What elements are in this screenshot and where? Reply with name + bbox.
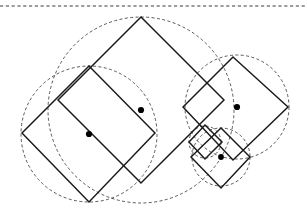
geometry-figure xyxy=(0,0,307,217)
dot-large-square-center xyxy=(138,107,144,113)
dot-right-small-center xyxy=(218,154,224,160)
square-large xyxy=(58,17,224,183)
geometry-canvas xyxy=(0,0,307,217)
dot-left-square-center xyxy=(86,131,92,137)
dot-right-medium-center xyxy=(234,104,240,110)
